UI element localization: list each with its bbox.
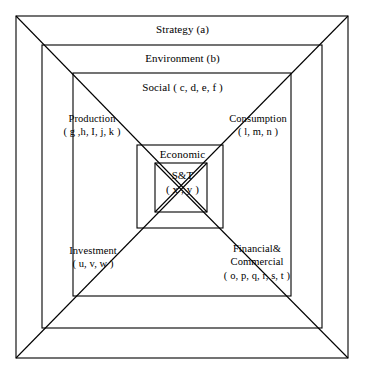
layer-label-social: Social ( c, d, e, f ) xyxy=(0,80,365,94)
nested-squares-diagram: Strategy (a) Environment (b) Social ( c,… xyxy=(0,0,365,374)
corner-label-production-title: Production xyxy=(27,112,157,125)
layer-label-social-text: Social ( c, d, e, f ) xyxy=(0,80,365,94)
layer-label-economic-text: Economic xyxy=(0,147,365,161)
corner-label-consumption: Consumption ( l, m, n ) xyxy=(193,112,323,139)
corner-label-production-items: ( g ,h, I, j, k ) xyxy=(27,125,157,138)
layer-label-environment-text: Environment (b) xyxy=(0,51,365,65)
corner-label-financial-commercial: Financial& Commercial ( o, p, q, r, s, t… xyxy=(192,242,322,282)
corner-label-financial-title: Financial& xyxy=(192,242,322,255)
corner-label-financial-items: ( o, p, q, r, s, t ) xyxy=(192,269,322,282)
layer-label-st: S&T ( x , y ) xyxy=(0,168,365,196)
corner-label-consumption-title: Consumption xyxy=(193,112,323,125)
layer-label-economic: Economic xyxy=(0,147,365,161)
corner-label-commercial-title: Commercial xyxy=(192,255,322,268)
corner-label-production: Production ( g ,h, I, j, k ) xyxy=(27,112,157,139)
layer-label-strategy-text: Strategy (a) xyxy=(0,22,365,36)
corner-label-investment-items: ( u, v, w ) xyxy=(28,257,158,270)
layer-label-st-items: ( x , y ) xyxy=(0,182,365,196)
layer-label-st-text: S&T xyxy=(0,168,365,182)
corner-label-investment: Investment ( u, v, w ) xyxy=(28,244,158,271)
corner-label-investment-title: Investment xyxy=(28,244,158,257)
layer-label-environment: Environment (b) xyxy=(0,51,365,65)
layer-label-strategy: Strategy (a) xyxy=(0,22,365,36)
corner-label-consumption-items: ( l, m, n ) xyxy=(193,125,323,138)
